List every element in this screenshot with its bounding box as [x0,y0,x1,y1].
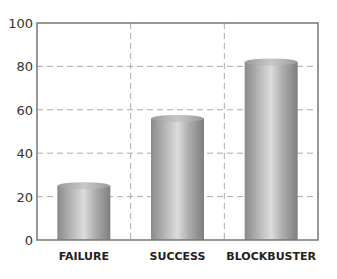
y-tick-label: 60 [16,103,33,118]
y-tick-label: 0 [25,233,33,248]
y-axis-ticks: 020406080100 [8,16,33,248]
x-tick-label: BLOCKBUSTER [226,250,316,263]
y-tick-label: 100 [8,16,33,31]
y-tick-label: 80 [16,59,33,74]
bar-failure [57,182,110,240]
y-tick-label: 40 [16,146,33,161]
x-axis-labels: FAILURESUCCESSBLOCKBUSTER [59,250,317,263]
bar-blockbuster [245,59,298,240]
y-tick-label: 20 [16,190,33,205]
bar-chart: 020406080100 FAILURESUCCESSBLOCKBUSTER [0,0,337,279]
bars [57,59,297,240]
x-tick-label: FAILURE [59,250,109,263]
bar-success [151,115,204,240]
x-tick-label: SUCCESS [150,250,206,263]
